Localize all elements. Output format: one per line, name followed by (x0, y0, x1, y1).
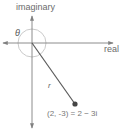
modulus-segment (32, 43, 75, 104)
complex-plane-diagram: imaginary real θ r (2, -3) = 2 − 3i (0, 0, 120, 132)
theta-label: θ (15, 28, 20, 38)
imaginary-axis-label: imaginary (16, 2, 56, 12)
complex-point-marker (72, 101, 77, 106)
modulus-label: r (48, 81, 51, 90)
diagram-canvas: imaginary real θ r (2, -3) = 2 − 3i (0, 0, 120, 132)
real-axis-label: real (104, 44, 119, 54)
point-label: (2, -3) = 2 − 3i (47, 109, 97, 118)
